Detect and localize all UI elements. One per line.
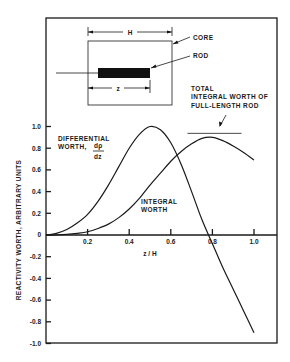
y-tick-label: -0.6 (30, 296, 42, 303)
y-tick-label: 1.0 (32, 123, 41, 130)
h-arrow-left-icon (88, 31, 93, 34)
differential-label-line-1: DIFFERENTIAL (58, 135, 110, 142)
y-tick-label: -0.2 (30, 253, 42, 260)
x-ticks: 0.20.40.60.81.0 (83, 229, 259, 245)
curves (46, 126, 254, 332)
rod-leader-line (151, 56, 190, 68)
h-label: H (128, 29, 133, 36)
differential-frac-numerator: dρ (94, 142, 103, 150)
core-label: CORE (193, 34, 214, 41)
z-label: z (116, 85, 120, 92)
integral-label-line-1: INTEGRAL (141, 198, 177, 205)
y-tick-label: -1.0 (30, 340, 42, 347)
total-label-line-2: INTEGRAL WORTH OF (191, 93, 268, 100)
y-tick-label: -0.4 (30, 275, 42, 282)
x-tick-label: 0.6 (166, 238, 175, 245)
x-tick-label: 0.2 (83, 238, 92, 245)
y-tick-label: 0.8 (32, 145, 41, 152)
total-label-line-1: TOTAL (191, 85, 214, 92)
y-tick-label: 0 (37, 231, 41, 238)
integral-label-line-2: WORTH (141, 206, 168, 213)
y-tick-label: 0.6 (32, 166, 41, 173)
y-tick-label: -0.8 (30, 318, 42, 325)
h-arrow-right-icon (167, 31, 172, 34)
total-label-line-3: FULL-LENGTH ROD (191, 102, 259, 109)
rod-leader-arrow-icon (151, 65, 157, 69)
plot-frame (46, 18, 277, 343)
differential-label: DIFFERENTIAL WORTH, dρ dz (58, 135, 110, 160)
z-arrow-right-icon (145, 87, 150, 90)
total-worth-annotation: TOTAL INTEGRAL WORTH OF FULL-LENGTH ROD (187, 85, 268, 133)
rod-label: ROD (193, 52, 209, 59)
differential-frac-denominator: dz (94, 153, 102, 160)
y-tick-label: 0.2 (32, 210, 41, 217)
z-arrow-left-icon (88, 87, 93, 90)
x-axis-label: z / H (143, 250, 157, 257)
y-tick-label: 0.4 (32, 188, 41, 195)
integral-worth-curve (46, 137, 254, 235)
core-leader-arrow-icon (173, 41, 179, 45)
reactivity-worth-chart: 1.00.80.60.40.20-0.2-0.4-0.6-0.8-1.0 0.2… (0, 0, 290, 362)
rod-bar (98, 68, 150, 78)
x-tick-label: 0.4 (125, 238, 134, 245)
x-tick-label: 1.0 (249, 238, 258, 245)
integral-label: INTEGRAL WORTH (141, 198, 177, 213)
differential-label-line-2: WORTH, (58, 143, 87, 151)
differential-worth-curve (46, 126, 254, 332)
core-rod-diagram: H z CORE ROD (56, 27, 214, 105)
y-axis-label: REACTIVITY WORTH, ARBITRARY UNITS (15, 159, 23, 300)
